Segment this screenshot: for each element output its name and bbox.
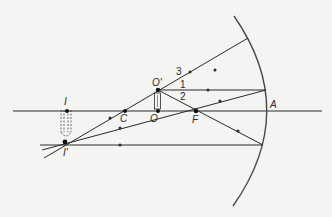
diagram-canvas: O' O C F A I I' 1 2 3 [0,0,332,217]
ray-2-arrow [237,130,240,133]
image-candle [61,110,71,136]
ray-3-arrow [214,69,217,72]
ray-1-reflected-arrow [219,100,222,103]
label-f: F [192,114,199,125]
label-o: O [150,113,158,124]
ray-2-incident [158,90,263,145]
label-ray-1: 1 [180,79,186,90]
ray-3 [44,38,248,158]
label-o-prime: O' [152,77,163,88]
ray-1-arrow [207,89,210,92]
label-ray-2: 2 [180,91,186,102]
ray-1-reflected-arrow-2 [119,127,122,130]
ray-2-reflected-arrow [119,144,122,147]
label-i-prime: I' [63,147,69,158]
point-i [65,109,69,113]
label-i: I [64,96,67,107]
point-i-prime [63,140,68,145]
label-c: C [120,113,128,124]
ray-3-reflected-arrow [109,117,112,120]
point-f [194,109,198,113]
ray-3-arrow-2 [189,71,192,74]
label-a: A [269,99,277,110]
label-ray-3: 3 [176,66,182,77]
ray-diagram: O' O C F A I I' 1 2 3 [0,0,332,217]
point-o-prime [156,88,160,92]
